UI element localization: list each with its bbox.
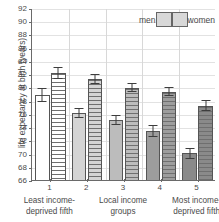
error-bar-men xyxy=(38,88,47,101)
bar-men xyxy=(72,113,87,181)
y-tick-label: 92 xyxy=(18,5,27,13)
x-tick-mark xyxy=(198,179,199,183)
y-tick-label: 84 xyxy=(18,58,27,66)
x-category-line1: Least income- xyxy=(24,196,75,207)
group-separator xyxy=(179,9,180,181)
x-tick-mark xyxy=(124,179,125,183)
x-tick-label: 1 xyxy=(47,183,51,192)
y-tick-mark xyxy=(29,181,33,182)
x-tick-mark xyxy=(161,179,162,183)
error-bar-women xyxy=(54,67,63,79)
legend-swatch-men xyxy=(156,12,172,27)
bar-women xyxy=(51,73,66,181)
y-tick-label: 80 xyxy=(18,84,27,92)
legend-swatch-women xyxy=(172,12,188,27)
x-tick-label: 5 xyxy=(194,183,198,192)
error-bar-men xyxy=(148,125,157,137)
group-separator xyxy=(106,9,107,181)
x-category-line2: deprived fifth xyxy=(172,207,219,218)
x-category-label: Least income-deprived fifth xyxy=(24,196,75,217)
error-bar-men xyxy=(185,148,194,159)
y-tick-label: 68 xyxy=(18,164,27,172)
x-tick-mark xyxy=(87,179,88,183)
x-tick-mark xyxy=(50,179,51,183)
x-tick-label: 2 xyxy=(84,183,88,192)
bar-men xyxy=(35,95,50,181)
error-bar-women xyxy=(128,83,137,92)
x-axis-line xyxy=(31,180,215,181)
x-tick-label: 4 xyxy=(158,183,162,192)
y-tick-label: 72 xyxy=(18,137,27,145)
y-tick-label: 90 xyxy=(18,18,27,26)
bar-women xyxy=(125,88,140,181)
x-category-label: Most income-deprived fifth xyxy=(172,196,219,217)
x-category-label: Local incomegroups xyxy=(99,196,147,217)
bar-men xyxy=(146,131,161,181)
bars-layer xyxy=(32,9,215,181)
x-category-line1: Most income- xyxy=(172,196,219,207)
y-tick-label: 88 xyxy=(18,31,27,39)
x-category-line2: deprived fifth xyxy=(24,207,75,218)
x-category-line2: groups xyxy=(99,207,147,218)
y-tick-label: 76 xyxy=(18,111,27,119)
bar-women xyxy=(88,79,103,181)
legend-label-men: men xyxy=(139,15,156,25)
plot-area: 6668707274767880828486889092 xyxy=(31,9,215,181)
bar-women xyxy=(198,106,213,181)
group-separator xyxy=(69,9,70,181)
y-tick-label: 74 xyxy=(18,124,27,132)
y-tick-label: 86 xyxy=(18,45,27,53)
y-tick-label: 78 xyxy=(18,98,27,106)
y-tick-label: 70 xyxy=(18,151,27,159)
legend-label-women: women xyxy=(188,15,215,25)
bar-men xyxy=(109,120,124,181)
error-bar-women xyxy=(91,74,100,85)
bar-women xyxy=(162,92,177,181)
error-bar-men xyxy=(75,108,84,119)
x-category-line1: Local income xyxy=(99,196,147,207)
error-bar-men xyxy=(112,115,121,126)
chart-container: life expectancy at birth (years) 6668707… xyxy=(0,0,219,222)
error-bar-women xyxy=(201,100,210,111)
legend: men women xyxy=(139,12,215,27)
error-bar-women xyxy=(164,87,173,96)
y-tick-label: 82 xyxy=(18,71,27,79)
y-tick-label: 66 xyxy=(18,177,27,185)
x-tick-label: 3 xyxy=(121,183,125,192)
group-separator xyxy=(142,9,143,181)
